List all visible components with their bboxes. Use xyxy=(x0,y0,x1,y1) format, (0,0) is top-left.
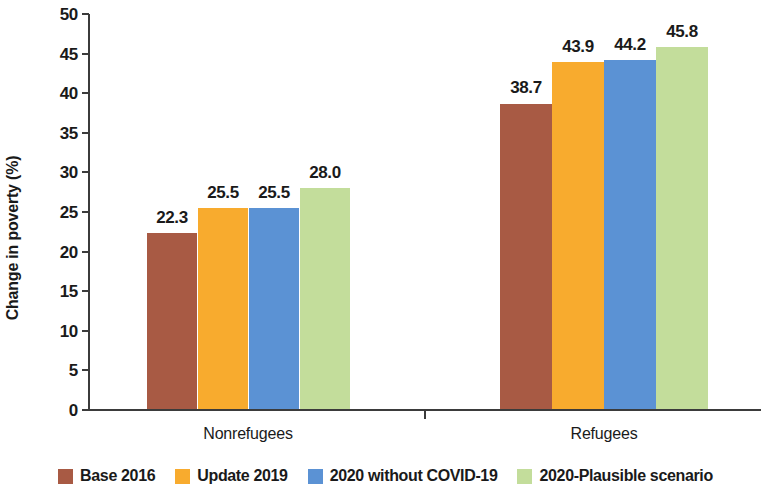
legend-swatch-icon xyxy=(175,469,190,484)
y-axis-tick-label: 30 xyxy=(34,164,78,181)
legend-label: 2020 without COVID-19 xyxy=(330,467,498,485)
legend-item[interactable]: 2020 without COVID-19 xyxy=(308,467,498,485)
bar xyxy=(300,188,350,410)
bar xyxy=(249,208,299,410)
y-axis-tick xyxy=(82,132,89,134)
bar-value-label: 28.0 xyxy=(290,164,360,182)
y-axis-tick-label: 0 xyxy=(34,402,78,419)
y-axis-tick-label: 35 xyxy=(34,125,78,142)
y-axis-tick xyxy=(82,290,89,292)
bar-chart: Change in poverty (%) 504540353025201510… xyxy=(0,0,771,490)
bar xyxy=(147,233,197,410)
y-axis-tick xyxy=(82,251,89,253)
y-axis-tick xyxy=(82,369,89,371)
legend-swatch-icon xyxy=(308,469,323,484)
y-axis-title: Change in poverty (%) xyxy=(0,40,26,436)
bar xyxy=(500,104,552,411)
bar-value-label: 22.3 xyxy=(137,209,207,227)
legend-item[interactable]: 2020-Plausible scenario xyxy=(517,467,712,485)
legend-item[interactable]: Base 2016 xyxy=(58,467,155,485)
y-axis-tick xyxy=(82,92,89,94)
y-axis-tick-label: 15 xyxy=(34,283,78,300)
bar-value-label: 25.5 xyxy=(239,184,309,202)
y-axis-tick-label: 25 xyxy=(34,204,78,221)
legend-item[interactable]: Update 2019 xyxy=(175,467,287,485)
legend-swatch-icon xyxy=(58,469,73,484)
y-axis-tick xyxy=(82,53,89,55)
bar xyxy=(552,62,604,410)
x-axis-group-label: Nonrefugees xyxy=(148,424,348,444)
legend-swatch-icon xyxy=(517,469,532,484)
y-axis-tick-label: 5 xyxy=(34,362,78,379)
legend-label: Update 2019 xyxy=(197,467,287,485)
bar xyxy=(198,208,248,410)
x-axis-group-divider-tick xyxy=(424,411,426,419)
y-axis-tick-label: 45 xyxy=(34,46,78,63)
bar-value-label: 45.8 xyxy=(646,23,718,41)
y-axis-tick xyxy=(82,171,89,173)
bar xyxy=(656,47,708,410)
legend-label: 2020-Plausible scenario xyxy=(539,467,712,485)
y-axis-tick xyxy=(82,13,89,15)
x-axis-group-label: Refugees xyxy=(504,424,704,444)
bar xyxy=(604,60,656,410)
y-axis-tick xyxy=(82,330,89,332)
chart-legend: Base 2016Update 20192020 without COVID-1… xyxy=(0,462,771,490)
y-axis-tick xyxy=(82,211,89,213)
y-axis-tick-label: 10 xyxy=(34,323,78,340)
y-axis-tick-label: 40 xyxy=(34,85,78,102)
y-axis-tick-label: 20 xyxy=(34,244,78,261)
y-axis-tick-label: 50 xyxy=(34,6,78,23)
legend-label: Base 2016 xyxy=(80,467,155,485)
